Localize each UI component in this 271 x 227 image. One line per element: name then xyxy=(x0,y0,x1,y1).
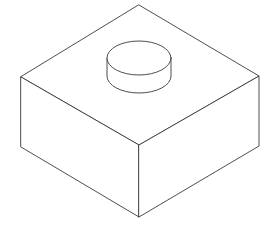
cylinder-top-ellipse xyxy=(107,41,171,75)
cylinder xyxy=(107,41,171,93)
block xyxy=(21,5,259,217)
isometric-block-diagram xyxy=(0,0,271,227)
